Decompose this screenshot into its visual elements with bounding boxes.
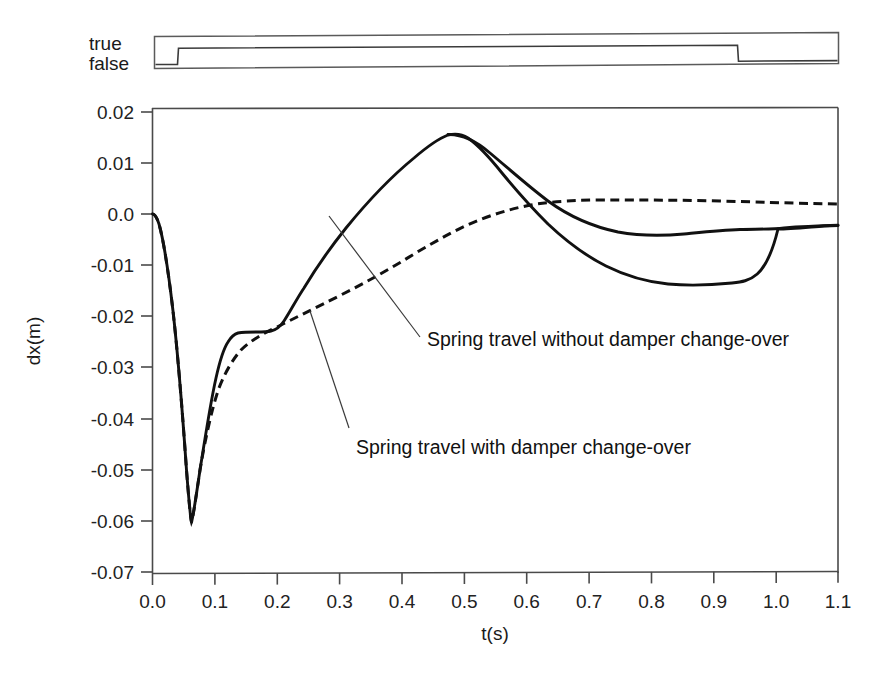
annotation-label-without-damper: Spring travel without damper change-over bbox=[427, 328, 790, 350]
x-tick-label: 1.0 bbox=[763, 591, 789, 612]
y-tick-label: -0.07 bbox=[91, 562, 134, 583]
y-tick--0.03: -0.03 bbox=[91, 357, 153, 378]
chart-svg: true false 0.02 0.01 bbox=[0, 0, 896, 673]
x-tick-label: 0.5 bbox=[451, 591, 477, 612]
y-tick-label: 0.0 bbox=[108, 204, 134, 225]
y-tick--0.04: -0.04 bbox=[91, 409, 153, 430]
x-tick-label: 0.8 bbox=[638, 591, 664, 612]
x-tick-0.2: 0.2 bbox=[264, 573, 290, 612]
leader-line-without-damper bbox=[329, 216, 420, 337]
x-tick-0.7: 0.7 bbox=[576, 572, 602, 612]
y-tick-label: -0.06 bbox=[91, 511, 134, 532]
y-tick--0.02: -0.02 bbox=[91, 306, 153, 327]
y-axis: 0.02 0.01 0.0 -0.01 -0.02 -0.03 bbox=[91, 102, 153, 583]
x-tick-label: 0.0 bbox=[139, 591, 165, 612]
y-axis-title: dx(m) bbox=[23, 317, 44, 366]
signal-false-label: false bbox=[89, 53, 129, 74]
x-tick-label: 0.6 bbox=[513, 591, 539, 612]
signal-frame bbox=[155, 33, 839, 69]
series-line-without-damper-changeover-tail bbox=[448, 134, 838, 235]
x-tick-label: 0.4 bbox=[389, 591, 416, 612]
signal-panel: true false bbox=[89, 33, 839, 75]
x-tick-label: 0.2 bbox=[264, 591, 290, 612]
y-tick-0.02: 0.02 bbox=[97, 102, 152, 123]
x-tick-label: 0.9 bbox=[701, 591, 727, 612]
y-tick-label: 0.01 bbox=[97, 153, 134, 174]
y-tick-label: -0.01 bbox=[91, 255, 134, 276]
x-tick-label: 1.1 bbox=[825, 591, 851, 612]
x-tick-0.5: 0.5 bbox=[451, 573, 477, 613]
x-tick-0.0: 0.0 bbox=[139, 574, 165, 613]
y-tick--0.01: -0.01 bbox=[91, 255, 153, 276]
y-tick-label: -0.05 bbox=[91, 460, 134, 481]
series-line-with-damper-changeover bbox=[153, 200, 839, 522]
x-tick-0.8: 0.8 bbox=[638, 572, 664, 612]
y-tick-label: -0.04 bbox=[91, 409, 135, 430]
x-tick-0.4: 0.4 bbox=[389, 573, 416, 612]
x-axis: 0.0 0.1 0.2 0.3 0.4 0.5 bbox=[139, 571, 851, 612]
y-tick--0.05: -0.05 bbox=[91, 460, 153, 481]
signal-trace bbox=[156, 45, 838, 64]
x-tick-0.3: 0.3 bbox=[326, 573, 352, 612]
x-tick-1.1: 1.1 bbox=[825, 571, 851, 612]
y-tick-0.0: 0.0 bbox=[108, 204, 153, 225]
x-tick-0.6: 0.6 bbox=[513, 572, 539, 612]
y-tick-0.01: 0.01 bbox=[97, 153, 152, 174]
x-tick-label: 0.7 bbox=[576, 591, 602, 612]
annotation-label-with-damper: Spring travel with damper change-over bbox=[356, 436, 691, 458]
signal-true-label: true bbox=[89, 33, 122, 54]
x-tick-label: 0.1 bbox=[202, 591, 228, 612]
y-tick--0.07: -0.07 bbox=[91, 562, 153, 583]
y-tick--0.06: -0.06 bbox=[91, 511, 153, 532]
y-tick-label: -0.02 bbox=[91, 306, 134, 327]
x-tick-0.1: 0.1 bbox=[202, 573, 228, 612]
leader-line-with-damper bbox=[310, 311, 349, 428]
x-tick-1.0: 1.0 bbox=[763, 572, 789, 613]
x-axis-title: t(s) bbox=[481, 623, 508, 644]
x-tick-label: 0.3 bbox=[326, 591, 352, 612]
x-tick-0.9: 0.9 bbox=[701, 572, 727, 612]
y-tick-label: -0.03 bbox=[91, 357, 134, 378]
y-tick-label: 0.02 bbox=[97, 102, 134, 123]
figure-container: true false 0.02 0.01 bbox=[0, 0, 896, 673]
